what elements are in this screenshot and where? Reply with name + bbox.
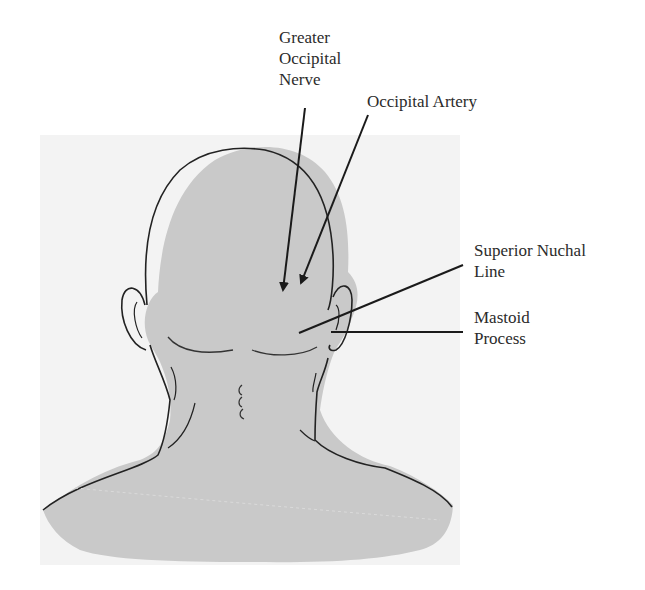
label-line: Mastoid bbox=[474, 307, 530, 328]
label-superior-nuchal-line: Superior Nuchal Line bbox=[474, 240, 586, 282]
label-line: Process bbox=[474, 328, 530, 349]
body-silhouette bbox=[43, 147, 453, 562]
label-line: Greater bbox=[279, 27, 341, 48]
label-greater-occipital-nerve: Greater Occipital Nerve bbox=[279, 27, 341, 90]
label-line: Nerve bbox=[279, 69, 341, 90]
label-mastoid-process: Mastoid Process bbox=[474, 307, 530, 349]
label-line: Occipital bbox=[279, 48, 341, 69]
label-line: Line bbox=[474, 261, 586, 282]
label-line: Superior Nuchal bbox=[474, 240, 586, 261]
left-ear bbox=[122, 288, 146, 350]
label-occipital-artery: Occipital Artery bbox=[367, 91, 477, 112]
